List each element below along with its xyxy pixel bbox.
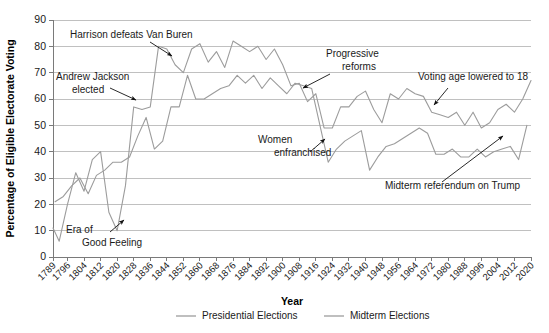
line-chart: 0102030405060708090 17891796180418121820… bbox=[0, 0, 549, 333]
annotation-label-line2: enfranchised bbox=[274, 147, 331, 158]
y-tick-label: 0 bbox=[40, 250, 46, 262]
y-axis-title: Percentage of Eligible Electorate Voting bbox=[4, 39, 16, 237]
y-tick-label: 30 bbox=[34, 171, 46, 183]
y-tick-label: 70 bbox=[34, 66, 46, 78]
annotation-label-line2: reforms bbox=[342, 61, 376, 72]
trump-midterm-annotation: Midterm referendum on Trump bbox=[385, 136, 520, 191]
annotation-label-line2: elected bbox=[72, 84, 104, 95]
annotation-label-line1: Women bbox=[258, 134, 292, 145]
y-tick-label: 20 bbox=[34, 198, 46, 210]
x-axis-title: Year bbox=[281, 295, 303, 307]
annotation-arrow bbox=[150, 42, 172, 56]
annotation-label-line1: Progressive bbox=[326, 48, 379, 59]
annotation-arrow bbox=[110, 88, 136, 100]
y-tick-label: 40 bbox=[34, 145, 46, 157]
era-good-feeling-annotation: Era ofGood Feeling bbox=[66, 220, 142, 248]
annotation-label-line2: Good Feeling bbox=[82, 237, 142, 248]
chart-annotations: Harrison defeats Van BurenAndrew Jackson… bbox=[56, 29, 529, 248]
y-tick-label: 50 bbox=[34, 119, 46, 131]
x-tick-label: 2020 bbox=[513, 260, 536, 283]
progressive-reforms-annotation: Progressivereforms bbox=[303, 48, 379, 88]
annotation-arrow bbox=[442, 136, 503, 182]
gridlines bbox=[53, 20, 531, 231]
chart-container: 0102030405060708090 17891796180418121820… bbox=[0, 0, 549, 333]
annotation-arrow bbox=[434, 88, 448, 105]
annotation-label: Harrison defeats Van Buren bbox=[70, 29, 193, 40]
y-tick-label: 80 bbox=[34, 40, 46, 52]
voting-age-annotation: Voting age lowered to 18 bbox=[418, 71, 529, 105]
legend-label: Presidential Elections bbox=[202, 310, 298, 321]
harrison-annotation: Harrison defeats Van Buren bbox=[70, 29, 193, 56]
y-axis-ticks: 0102030405060708090 bbox=[34, 13, 53, 262]
annotation-label: Midterm referendum on Trump bbox=[385, 180, 520, 191]
annotation-label: Voting age lowered to 18 bbox=[418, 71, 529, 82]
y-tick-label: 10 bbox=[34, 224, 46, 236]
women-enfranchised-annotation: Womenenfranchised bbox=[258, 134, 331, 158]
legend-item-midterm[interactable]: Midterm Elections bbox=[324, 310, 429, 321]
chart-legend: Presidential ElectionsMidterm Elections bbox=[176, 310, 429, 321]
annotation-arrow bbox=[303, 74, 330, 88]
annotation-label-line1: Era of bbox=[66, 224, 93, 235]
legend-label: Midterm Elections bbox=[350, 310, 429, 321]
jackson-annotation: Andrew Jacksonelected bbox=[56, 71, 136, 100]
y-tick-label: 60 bbox=[34, 92, 46, 104]
y-tick-label: 90 bbox=[34, 13, 46, 25]
x-axis-ticks: 1789179618041812182018281836184418521860… bbox=[35, 257, 536, 282]
annotation-label-line1: Andrew Jackson bbox=[56, 71, 129, 82]
legend-item-presidential[interactable]: Presidential Elections bbox=[176, 310, 298, 321]
